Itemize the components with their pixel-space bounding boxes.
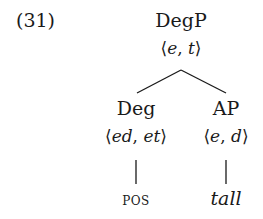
left-type-b: et (143, 126, 160, 146)
left-type: ⟨ed, et⟩ (105, 128, 167, 145)
right-type-b: d (231, 126, 242, 146)
right-leaf: tall (210, 189, 241, 208)
left-type-a: ed (112, 126, 133, 146)
right-type-open: ⟨ (203, 126, 210, 146)
branch-right (181, 70, 226, 93)
right-type-sep: , (220, 126, 231, 146)
left-leaf: pos (122, 191, 150, 208)
right-type-a: e (210, 126, 220, 146)
right-type-close: ⟩ (242, 126, 249, 146)
right-type: ⟨e, d⟩ (203, 128, 248, 145)
left-type-sep: , (133, 126, 144, 146)
left-type-close: ⟩ (160, 126, 167, 146)
left-type-open: ⟨ (105, 126, 112, 146)
left-label: Deg (117, 99, 156, 118)
right-label: AP (213, 99, 240, 118)
branch-left (137, 70, 181, 93)
